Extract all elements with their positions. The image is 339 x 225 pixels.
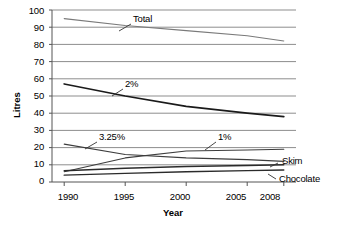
gridlines	[52, 10, 296, 165]
x-tick-marks	[64, 182, 284, 186]
series-annotation-325pct: 3.25%	[99, 132, 125, 142]
series-annotation-1pct: 1%	[218, 132, 231, 142]
series-annotation-2pct: 2%	[125, 79, 138, 89]
series-annotation-chocolate: Chocolate	[279, 174, 320, 184]
series-lines	[64, 19, 284, 176]
chart-container: Litres 100 90 80 70 60 50 40 30 20 10 0 …	[0, 0, 339, 225]
annotation-leader-lines	[85, 24, 278, 179]
series-annotation-skim: Skim	[282, 156, 302, 166]
series-annotation-total: Total	[133, 14, 152, 24]
chart-plot-area	[0, 0, 339, 225]
